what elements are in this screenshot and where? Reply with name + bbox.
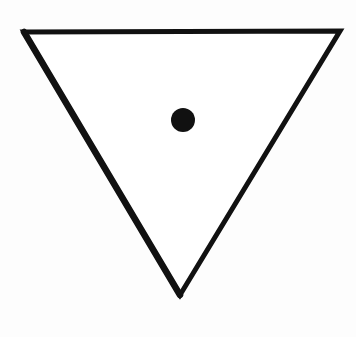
diagram-canvas: Downward-pointing triangle with central … bbox=[0, 0, 356, 337]
triangle-diagram bbox=[0, 0, 356, 337]
center-dot bbox=[171, 108, 195, 132]
inverted-triangle-shape bbox=[24, 31, 340, 295]
